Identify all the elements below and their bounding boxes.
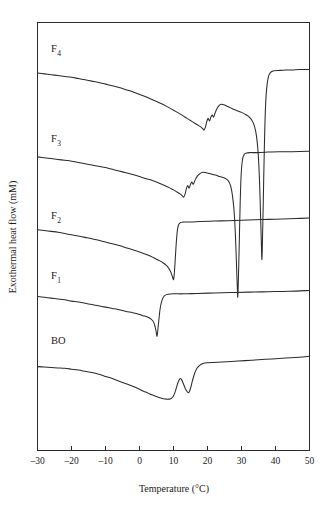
curve-label-subscript: 3 (57, 139, 61, 148)
x-tick-label: –10 (97, 456, 113, 466)
curve-label-f3: F3 (51, 133, 61, 147)
curve-label-f1: F1 (51, 270, 61, 284)
curve-f3 (38, 151, 310, 297)
dsc-thermogram-figure: –30–20–1001020304050 F4F3F2F1BO Temperat… (0, 0, 330, 521)
x-axis-ticks (38, 446, 310, 451)
x-tick-label: 10 (169, 456, 179, 466)
curve-label-text: F (51, 210, 57, 221)
curve-label-text: F (51, 270, 57, 281)
y-axis-title: Exothermal heat flow (mM) (7, 181, 19, 293)
x-axis-tick-labels: –30–20–1001020304050 (29, 456, 314, 466)
x-tick-label: –20 (63, 456, 79, 466)
curve-label-subscript: 2 (57, 216, 61, 225)
curve-label-f2: F2 (51, 210, 61, 224)
x-tick-label: 40 (271, 456, 281, 466)
x-tick-label: 0 (137, 456, 142, 466)
curve-label-text: BO (51, 335, 66, 346)
x-tick-label: 20 (203, 456, 213, 466)
x-axis-title: Temperature (°C) (139, 483, 209, 495)
curve-label-f4: F4 (51, 43, 61, 57)
curve-f1 (38, 290, 310, 336)
x-tick-label: –30 (29, 456, 45, 466)
curve-label-subscript: 4 (57, 49, 61, 58)
x-tick-label: 30 (237, 456, 247, 466)
chart-canvas: –30–20–1001020304050 F4F3F2F1BO Temperat… (0, 0, 330, 521)
curve-label-text: F (51, 133, 57, 144)
curve-bo (38, 356, 310, 399)
curve-f2 (38, 218, 310, 280)
curve-series-group (38, 70, 310, 400)
curve-f4 (38, 70, 310, 260)
x-tick-label: 50 (305, 456, 315, 466)
curve-label-text: F (51, 43, 57, 54)
curve-label-bo: BO (51, 335, 66, 346)
curve-label-subscript: 1 (57, 276, 61, 285)
